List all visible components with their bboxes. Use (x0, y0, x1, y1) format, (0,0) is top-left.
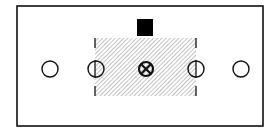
open-circle-left (42, 61, 58, 77)
black-block (137, 19, 153, 36)
diagram (0, 0, 275, 136)
open-circle-right (233, 61, 249, 77)
